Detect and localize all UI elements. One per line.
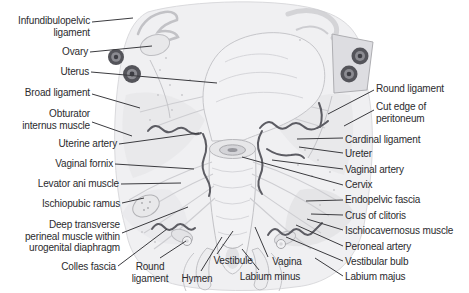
label-infundibulopelvic-ligament: Infundibulopelvic ligament [18, 15, 90, 38]
label-colles-fascia: Colles fascia [61, 261, 116, 273]
label-uterine-artery: Uterine artery [59, 138, 117, 150]
label-ovary: Ovary [62, 46, 88, 58]
label-cardinal-ligament: Cardinal ligament [345, 134, 420, 146]
label-vestibular-bulb: Vestibular bulb [345, 256, 408, 268]
label-cut-edge-of-peritoneum: Cut edge of peritoneum [376, 101, 426, 124]
label-round-ligament-bottom: Round ligament [132, 261, 169, 284]
label-uterus: Uterus [60, 66, 89, 78]
label-vagina: Vagina [272, 256, 302, 268]
label-deep-transverse-perineal: Deep transverse perineal muscle within u… [25, 219, 120, 254]
figure-canvas: Infundibulopelvic ligamentOvaryUterusBro… [0, 0, 469, 293]
label-levator-ani-muscle: Levator ani muscle [38, 178, 119, 190]
peritoneum-cut-wedge [332, 34, 373, 93]
label-vaginal-fornix: Vaginal fornix [55, 158, 113, 170]
label-vaginal-artery: Vaginal artery [345, 164, 404, 176]
label-vestibule: Vestibule [213, 255, 252, 267]
label-labium-minus: Labium minus [240, 271, 300, 283]
label-round-ligament-right: Round ligament [376, 83, 444, 95]
leader-infundibulopelvic-ligament [92, 18, 133, 22]
label-hymen: Hymen [182, 273, 213, 285]
label-ischiopubic-ramus: Ischiopubic ramus [42, 198, 120, 210]
label-cervix: Cervix [345, 179, 372, 191]
label-endopelvic-fascia: Endopelvic fascia [345, 194, 420, 206]
label-labium-majus: Labium majus [345, 271, 405, 283]
label-obturator-internus-muscle: Obturator internus muscle [22, 108, 90, 131]
label-ureter: Ureter [345, 148, 372, 160]
label-broad-ligament: Broad ligament [25, 87, 90, 99]
label-crus-of-clitoris: Crus of clitoris [345, 210, 406, 222]
label-ischiocavernosus-muscle: Ischiocavernosus muscle [345, 225, 453, 237]
label-peroneal-artery: Peroneal artery [345, 241, 411, 253]
